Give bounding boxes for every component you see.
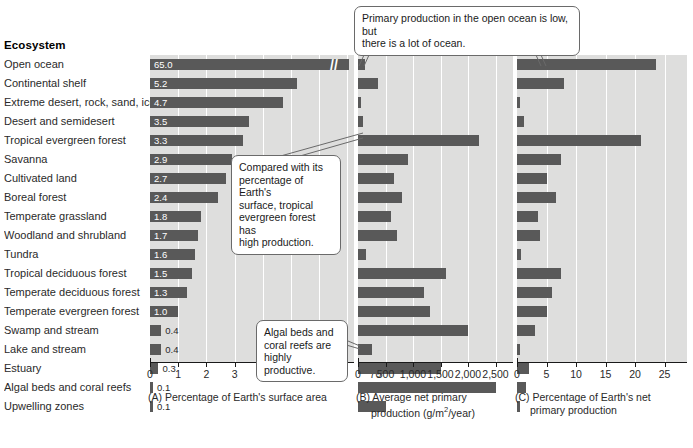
bar xyxy=(358,192,402,203)
bar xyxy=(358,78,378,89)
caption-b-prefix: (B) xyxy=(356,391,370,403)
bar xyxy=(358,135,479,146)
bar xyxy=(517,249,521,260)
axis-tick xyxy=(576,362,577,367)
bar-value-label: 1.8 xyxy=(150,211,167,222)
bar xyxy=(517,287,552,298)
caption-a: (A) Percentage of Earth's surface area xyxy=(148,391,360,404)
ecosystem-label: Tundra xyxy=(4,245,150,264)
caption-c: (C) Percentage of Earth's net primary pr… xyxy=(515,391,690,416)
bar xyxy=(517,116,524,127)
axis-tick-label: 2 xyxy=(203,368,209,380)
callout-open-ocean: Primary production in the open ocean is … xyxy=(354,6,580,56)
plot-area-b xyxy=(358,55,513,362)
bar-value-label: 1.0 xyxy=(150,306,167,317)
bar xyxy=(358,268,446,279)
ecosystem-label: Temperate evergreen forest xyxy=(4,302,150,321)
column-header-ecosystem: Ecosystem xyxy=(4,36,150,55)
bar xyxy=(358,230,397,241)
axis-tick-label: 1,000 xyxy=(400,368,426,380)
axis-tick-label: 0 xyxy=(514,368,520,380)
gridline xyxy=(496,55,497,362)
ecosystem-label: Tropical evergreen forest xyxy=(4,131,150,150)
bar xyxy=(150,97,283,108)
axis-tick-label: 5 xyxy=(544,368,550,380)
bar-value-label: 0.4 xyxy=(162,325,178,336)
bar-value-label: 5.2 xyxy=(150,78,167,89)
bar xyxy=(358,306,430,317)
bar xyxy=(358,325,468,336)
bar-value-label: 0.3 xyxy=(159,363,175,374)
bar xyxy=(358,249,366,260)
caption-b: (B) Average net primary production (g/m2… xyxy=(356,391,516,419)
gridline xyxy=(635,55,636,362)
bar-value-label: 1.6 xyxy=(150,249,167,260)
callout-algal-line2: coral reefs are xyxy=(264,339,340,352)
callout-tropical-line3: surface, tropical xyxy=(239,199,333,212)
figure-root: Ecosystem Open ocean Continental shelf E… xyxy=(0,0,693,448)
bar xyxy=(517,344,520,355)
callout-tropical-line1: Compared with its xyxy=(239,161,333,174)
callout-tropical-forest: Compared with its percentage of Earth's … xyxy=(231,155,341,255)
caption-b-line1: Average net primary xyxy=(372,391,466,403)
axis-line xyxy=(517,362,687,363)
caption-b-line2-pre: production (g/m xyxy=(371,406,444,418)
axis-tick xyxy=(178,362,179,367)
bar xyxy=(517,211,538,222)
bar xyxy=(150,344,161,355)
axis-tick xyxy=(665,362,666,367)
bar-value-label: 0.4 xyxy=(162,344,178,355)
bar-value-label: 4.7 xyxy=(150,97,167,108)
callout-algal-line1: Algal beds and xyxy=(264,326,340,339)
bar xyxy=(517,78,564,89)
axis-tick xyxy=(468,362,469,367)
ecosystem-label: Open ocean xyxy=(4,55,150,74)
callout-tropical-line2: percentage of Earth's xyxy=(239,174,333,199)
ecosystem-label: Desert and semidesert xyxy=(4,112,150,131)
ecosystem-label: Swamp and stream xyxy=(4,321,150,340)
bar xyxy=(517,154,561,165)
axis-tick-label: 10 xyxy=(570,368,582,380)
axis-line xyxy=(358,362,513,363)
caption-c-prefix: (C) xyxy=(515,391,530,403)
axis-tick-label: 2,000 xyxy=(455,368,481,380)
bar xyxy=(517,306,547,317)
bar xyxy=(517,325,535,336)
bar xyxy=(517,268,561,279)
ecosystem-label: Algal beds and coral reefs xyxy=(4,378,150,397)
caption-c-line2: primary production xyxy=(515,404,690,417)
bar xyxy=(517,97,520,108)
gridline xyxy=(665,55,666,362)
axis-tick-label: 15 xyxy=(600,368,612,380)
ecosystem-label: Boreal forest xyxy=(4,188,150,207)
bar xyxy=(517,135,641,146)
bar-value-label: 1.5 xyxy=(150,268,167,279)
axis-tick-label: 500 xyxy=(377,368,395,380)
bar xyxy=(517,230,540,241)
ecosystem-label: Extreme desert, rock, sand, ice xyxy=(4,93,150,112)
bar-value-label: 2.9 xyxy=(150,154,167,165)
bar xyxy=(517,173,547,184)
ecosystem-label: Continental shelf xyxy=(4,74,150,93)
axis-tick-label: 0 xyxy=(147,368,153,380)
gridline xyxy=(347,55,348,362)
bar xyxy=(358,211,391,222)
axis-tick xyxy=(606,362,607,367)
axis-tick-label: 3 xyxy=(232,368,238,380)
axis-tick xyxy=(150,362,151,367)
bar xyxy=(358,116,363,127)
gridline xyxy=(468,55,469,362)
callout-tropical-line5: high production. xyxy=(239,236,333,249)
axis-tick xyxy=(413,362,414,367)
callout-open-ocean-line1: Primary production in the open ocean is … xyxy=(362,12,572,37)
bar-value-label: 1.3 xyxy=(150,287,167,298)
axis-tick xyxy=(358,362,359,367)
bar xyxy=(150,325,161,336)
caption-c-line1: Percentage of Earth's net xyxy=(533,391,651,403)
axis-tick xyxy=(496,362,497,367)
ecosystem-label: Temperate deciduous forest xyxy=(4,283,150,302)
callout-open-ocean-line2: there is a lot of ocean. xyxy=(362,37,572,50)
bar xyxy=(517,192,556,203)
callout-algal-beds: Algal beds and coral reefs are highly pr… xyxy=(256,320,348,382)
ecosystem-label: Tropical deciduous forest xyxy=(4,264,150,283)
